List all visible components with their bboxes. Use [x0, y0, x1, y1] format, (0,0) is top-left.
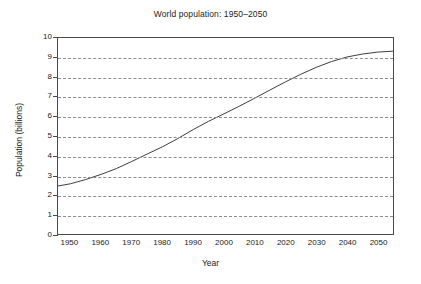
y-tick-label: 10 — [25, 32, 52, 41]
y-tick-label: 6 — [25, 111, 52, 120]
y-tick-mark — [53, 37, 58, 38]
y-tick-label: 7 — [25, 91, 52, 100]
y-tick-mark — [53, 215, 58, 216]
y-tick-mark — [53, 176, 58, 177]
x-axis-title: Year — [0, 258, 421, 268]
y-tick-label: 8 — [25, 72, 52, 81]
x-tick-label: 2050 — [359, 238, 399, 247]
y-tick-mark — [53, 235, 58, 236]
y-axis-title: Population (billions) — [14, 77, 24, 203]
y-tick-mark — [53, 77, 58, 78]
y-tick-mark — [53, 57, 58, 58]
y-tick-label: 1 — [25, 210, 52, 219]
y-tick-label: 5 — [25, 131, 52, 140]
chart-figure: World population: 1950–2050 012345678910… — [0, 0, 421, 284]
y-tick-mark — [53, 136, 58, 137]
y-tick-label: 2 — [25, 190, 52, 199]
y-tick-label: 4 — [25, 151, 52, 160]
y-tick-label: 0 — [25, 230, 52, 239]
y-tick-mark — [53, 156, 58, 157]
y-tick-label: 9 — [25, 52, 52, 61]
y-tick-mark — [53, 116, 58, 117]
y-tick-mark — [53, 195, 58, 196]
y-tick-label: 3 — [25, 171, 52, 180]
y-tick-mark — [53, 96, 58, 97]
